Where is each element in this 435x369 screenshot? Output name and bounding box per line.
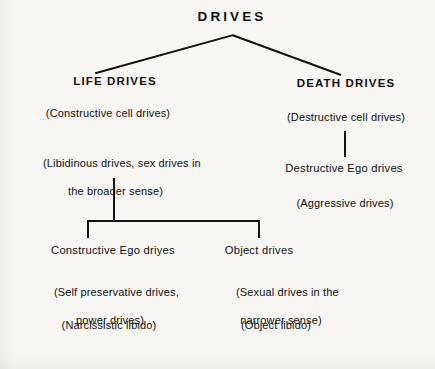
connector-life-drives-split-bar — [87, 220, 260, 222]
node-object-drives: Object drives — [196, 243, 322, 257]
gloss-libidinous-drives-line1: (Libidinous drives, sex drives in — [43, 157, 201, 169]
gloss-destructive-cell-drives: (Destructive cell drives) — [256, 110, 435, 124]
connector-to-constructive-ego-drives — [87, 220, 89, 238]
gloss-sexual-drives-narrower: (Sexual drives in the narrower sense) — [196, 271, 366, 355]
connector-root-to-life-drives — [95, 34, 233, 74]
connector-life-drives-stem — [113, 178, 115, 222]
node-destructive-ego-drives: Destructive Ego drives — [258, 161, 430, 175]
gloss-libidinous-drives: (Libidinous drives, sex drives in the br… — [8, 142, 223, 226]
connector-death-drives-stem — [344, 131, 346, 157]
connector-root-to-death-drives — [232, 34, 342, 76]
gloss-self-preservative-drives-line1: (Self preservative drives, — [54, 286, 179, 298]
gloss-constructive-cell-drives: (Constructive cell drives) — [10, 106, 206, 120]
root-node-drives: DRIVES — [167, 8, 297, 25]
gloss-libidinous-drives-line2: the broader sense) — [8, 184, 223, 198]
branch-heading-life-drives: LIFE DRIVES — [42, 74, 188, 89]
gloss-self-preservative-drives: (Self preservative drives, power drives) — [10, 271, 210, 355]
gloss-object-libido: (Object libido) — [196, 318, 356, 332]
diagram-canvas: DRIVES LIFE DRIVES (Constructive cell dr… — [0, 0, 435, 369]
gloss-sexual-drives-narrower-line1: (Sexual drives in the — [236, 286, 339, 298]
gloss-narcissistic-libido: (Narcissistic libido) — [14, 318, 204, 332]
connector-to-object-drives — [258, 220, 260, 238]
branch-heading-death-drives: DEATH DRIVES — [272, 76, 420, 91]
node-constructive-ego-drives: Constructive Ego driyes — [18, 243, 208, 257]
gloss-aggressive-drives: (Aggressive drives) — [262, 196, 428, 210]
